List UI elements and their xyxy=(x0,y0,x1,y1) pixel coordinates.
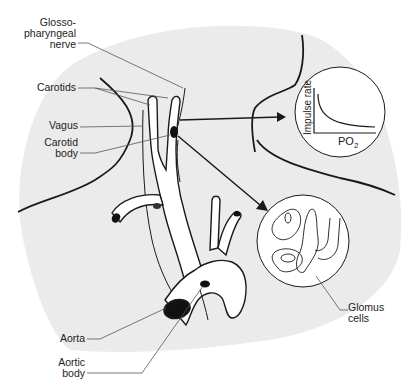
aortic-body xyxy=(200,281,210,288)
label-vagus: Vagus xyxy=(20,120,78,131)
label-aortic-body: Aortic body xyxy=(30,357,85,379)
label-line: cells xyxy=(348,313,384,324)
carotid-aortic-body-diagram: Impulse rate PO2 Glosso- pharyngeal nerv… xyxy=(0,0,414,391)
label-line: body xyxy=(20,148,78,159)
subclavian-body xyxy=(153,203,161,209)
brachiocephalic-branch xyxy=(210,196,220,250)
graph-ylabel: Impulse rate xyxy=(302,80,313,135)
label-line: body xyxy=(30,368,85,379)
label-aorta: Aorta xyxy=(30,333,85,344)
subclavian-lumen-right xyxy=(234,212,241,217)
label-line: nerve xyxy=(20,39,76,50)
label-glossopharyngeal: Glosso- pharyngeal nerve xyxy=(20,17,76,50)
label-carotids: Carotids xyxy=(20,82,76,93)
label-glomus-cells: Glomus cells xyxy=(348,302,384,324)
label-carotid-body: Carotid body xyxy=(20,137,78,159)
carotid-body xyxy=(170,126,178,138)
